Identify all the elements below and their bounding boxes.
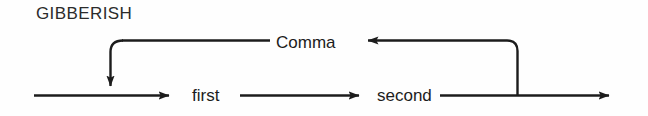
node-label-comma: Comma bbox=[276, 34, 336, 51]
edge-loop-descender-left bbox=[111, 41, 124, 87]
node-label-second: second bbox=[377, 87, 432, 104]
railroad-diagram: GIBBERISH Comma first second bbox=[0, 0, 648, 116]
diagram-title: GIBBERISH bbox=[36, 5, 132, 22]
node-label-first: first bbox=[192, 87, 219, 104]
